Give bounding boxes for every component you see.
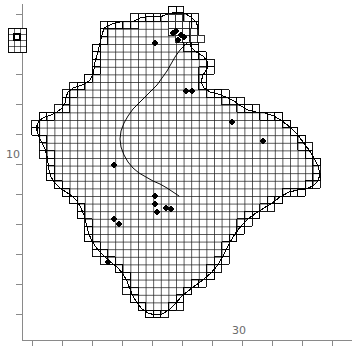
- record-dot: [170, 30, 175, 35]
- outlier-grid-square: [168, 14, 175, 21]
- outlier-grid-square: [197, 35, 204, 42]
- outlier-grid-square: [168, 21, 175, 28]
- x-axis-tick-label: 30: [232, 324, 246, 337]
- record-dot: [229, 119, 234, 124]
- map-svg: 10 30: [0, 0, 355, 353]
- y-axis-tick-label: 10: [6, 148, 20, 161]
- record-dot: [152, 193, 157, 198]
- record-dot: [260, 138, 265, 143]
- distribution-map-figure: 10 30: [0, 0, 355, 353]
- record-dot: [105, 259, 110, 264]
- outlier-grid-square: [182, 21, 189, 28]
- record-dot: [116, 221, 121, 226]
- record-dot: [183, 88, 188, 93]
- outlier-grid-square: [190, 28, 197, 35]
- record-dot: [111, 216, 116, 221]
- record-dot: [168, 206, 173, 211]
- record-dot: [181, 34, 186, 39]
- record-dot: [189, 88, 194, 93]
- record-dot: [152, 201, 157, 206]
- record-dot: [163, 205, 168, 210]
- record-dot: [152, 40, 157, 45]
- record-dot: [111, 162, 116, 167]
- outlier-grid-square: [175, 21, 182, 28]
- outlier-grid-square: [175, 14, 182, 21]
- record-dot: [154, 209, 159, 214]
- record-dot: [175, 37, 180, 42]
- outlier-grid-square: [190, 35, 197, 42]
- scilly-inset-box: [8, 28, 26, 52]
